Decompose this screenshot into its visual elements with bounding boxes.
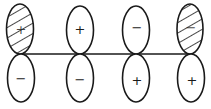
- orbital-diagram: + − + − − + − +: [0, 0, 211, 109]
- orbital-3-top-sign: −: [132, 20, 143, 35]
- orbital-2-top-sign: +: [75, 22, 86, 37]
- orbital-1-top-sign: +: [16, 22, 27, 37]
- orbital-2-bottom-sign: −: [75, 72, 86, 87]
- orbital-3-bottom-sign: +: [132, 73, 143, 88]
- orbital-4-top-sign: −: [186, 20, 197, 35]
- orbital-4-bottom-sign: +: [187, 73, 198, 88]
- orbital-1-bottom-sign: −: [16, 71, 27, 86]
- orbital-4: − +: [177, 4, 205, 102]
- orbital-1: + −: [7, 4, 35, 102]
